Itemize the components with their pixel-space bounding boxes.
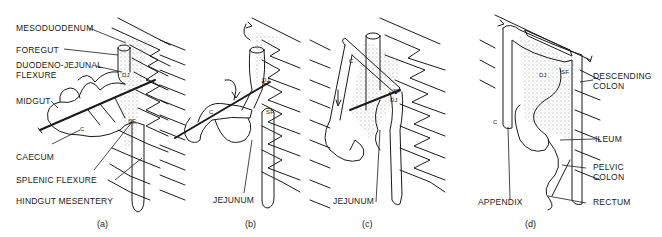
label-rectum: RECTUM — [593, 197, 631, 207]
label-mesoduodenum: MESODUODENUM — [16, 23, 94, 33]
label-jejunum-c: JEJUNUM — [333, 196, 374, 206]
label-ileum: ILEUM — [595, 134, 622, 144]
marker-dj: DJ — [122, 70, 130, 80]
panel-b — [160, 18, 300, 208]
marker-sf-d: SF — [561, 67, 569, 77]
marker-sf-b: SF — [266, 107, 274, 117]
caption-b: (b) — [245, 219, 256, 229]
marker-dj-b: DJ — [262, 75, 270, 85]
label-descending-line2: COLON — [593, 81, 624, 91]
marker-c-c: C — [349, 56, 354, 66]
label-hindgut-mesentery: HINDGUT MESENTERY — [16, 196, 113, 206]
label-pelvic-line1: PELVIC — [593, 162, 624, 172]
label-dj-flexure-line2: FLEXURE — [16, 70, 57, 80]
marker-c: C — [80, 124, 85, 134]
caption-d: (d) — [525, 219, 536, 229]
marker-dj-d: DJ — [539, 70, 547, 80]
label-descending-line1: DESCENDING — [593, 71, 652, 81]
caption-a: (a) — [97, 219, 108, 229]
label-pelvic-line2: COLON — [593, 172, 624, 182]
label-midgut: MIDGUT — [16, 96, 51, 106]
marker-dj-c: DJ — [390, 95, 398, 105]
label-splenic-flexure: SPLENIC FLEXURE — [16, 175, 97, 185]
label-jejunum-b: JEJUNUM — [213, 195, 254, 205]
marker-sf: SF — [128, 116, 136, 126]
label-dj-flexure-line1: DUODENO-JEJUNAL — [16, 60, 102, 70]
marker-c-d: C — [493, 117, 498, 127]
label-caecum: CAECUM — [16, 152, 54, 162]
label-appendix: APPENDIX — [478, 197, 523, 207]
panel-d — [480, 15, 600, 210]
midgut-rotation-figure: MESODUODENUM FOREGUT DUODENO-JEJUNAL FLE… — [0, 0, 662, 237]
caption-c: (c) — [362, 219, 373, 229]
marker-c-b: C — [209, 107, 214, 117]
label-foregut: FOREGUT — [16, 45, 59, 55]
